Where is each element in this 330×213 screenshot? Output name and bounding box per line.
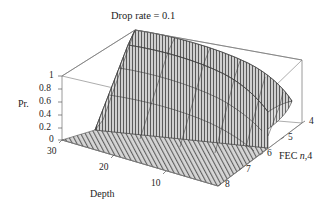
y-axis-label-prefix: FEC [279,150,300,161]
y-axis-label: FEC n,4 [279,151,312,161]
z-tick-0-8: 0.8 [39,84,51,94]
y-tick-6: 6 [267,149,272,159]
z-tick-0-4: 0.4 [39,110,51,120]
z-axis-label: Pr. [18,99,29,109]
y-axis-label-suffix: ,4 [305,150,313,161]
y-tick-8: 8 [225,180,230,190]
surface-plot-figure: Drop rate = 0.1 Pr. 1 0.8 0.6 0.4 0.2 0 … [0,0,330,213]
z-tick-0-2: 0.2 [39,123,51,133]
x-tick-20: 20 [99,163,109,173]
x-axis-label: Depth [90,189,114,199]
z-tick-1: 1 [49,71,54,81]
z-axis-ticks [58,76,62,140]
y-tick-5: 5 [288,133,293,143]
x-tick-10: 10 [151,179,161,189]
surface-plot-canvas [0,0,330,213]
x-tick-30: 30 [47,147,57,157]
z-tick-0-6: 0.6 [39,97,51,107]
y-tick-7: 7 [246,165,251,175]
chart-title: Drop rate = 0.1 [111,11,175,22]
z-tick-0: 0 [49,135,54,145]
y-tick-4: 4 [309,117,314,127]
